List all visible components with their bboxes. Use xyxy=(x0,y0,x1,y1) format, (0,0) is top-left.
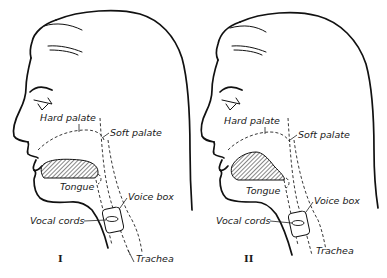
palate-line-1 xyxy=(38,130,104,150)
tongue-back-1 xyxy=(98,174,101,184)
panel-2: Hard palate Soft palate Tongue Voice box… xyxy=(201,13,378,264)
label-vocal-cords-1: Vocal cords xyxy=(30,215,84,226)
leader-soft-palate-1 xyxy=(102,133,109,138)
label-voice-box-2: Voice box xyxy=(314,195,360,206)
label-soft-palate-2: Soft palate xyxy=(298,129,350,140)
leader-soft-palate-2 xyxy=(290,135,297,140)
panel-1: Hard palate Soft palate Tongue Voice box… xyxy=(13,11,192,264)
label-trachea-2: Trachea xyxy=(316,245,354,256)
tongue-shape-1 xyxy=(41,159,98,178)
leader-trachea-1 xyxy=(128,250,134,262)
label-soft-palate-1: Soft palate xyxy=(110,127,162,138)
label-trachea-1: Trachea xyxy=(136,253,174,264)
label-hard-palate-1: Hard palate xyxy=(40,112,96,123)
label-vocal-cords-2: Vocal cords xyxy=(216,215,270,226)
label-tongue-2: Tongue xyxy=(246,185,281,196)
tongue-shape-2 xyxy=(231,152,284,180)
leader-voice-box-1 xyxy=(120,198,127,208)
label-voice-box-1: Voice box xyxy=(128,191,174,202)
panel-numeral-1: I xyxy=(58,253,63,264)
leader-vocal-cords-1 xyxy=(84,220,106,221)
speech-anatomy-diagram: Hard palate Soft palate Tongue Voice box… xyxy=(0,0,387,278)
palate-line-2 xyxy=(228,132,290,150)
label-tongue-1: Tongue xyxy=(60,181,95,192)
panel-numeral-2: II xyxy=(244,253,254,264)
voice-box-2 xyxy=(288,210,311,237)
label-hard-palate-2: Hard palate xyxy=(224,115,280,126)
leader-voice-box-2 xyxy=(306,202,313,212)
tongue-back-2 xyxy=(286,178,289,188)
